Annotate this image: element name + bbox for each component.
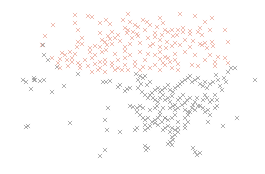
plot-background: [0, 0, 265, 174]
scatter-plot: [0, 0, 265, 174]
plot-area: [0, 0, 265, 174]
